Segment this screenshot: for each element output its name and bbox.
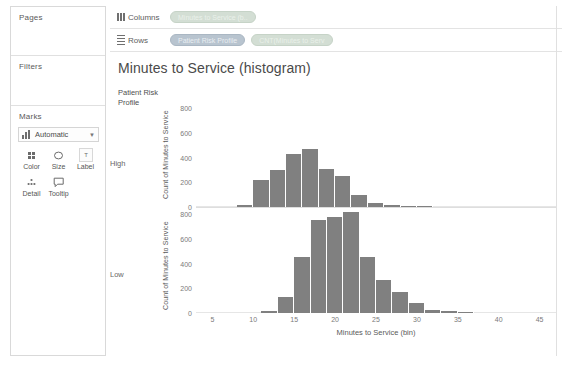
tableau-worksheet: Pages Filters Marks Automatic ▼ C bbox=[0, 0, 572, 371]
view-right-border bbox=[556, 6, 557, 356]
histogram-bar[interactable] bbox=[360, 257, 376, 313]
x-tick-label: 5 bbox=[210, 316, 214, 323]
size-circle-icon bbox=[52, 148, 66, 162]
y-axis-ticks-high: 0200400600800 bbox=[172, 102, 192, 207]
histogram-bar[interactable] bbox=[441, 311, 457, 313]
left-cards-panel: Pages Filters Marks Automatic ▼ C bbox=[10, 6, 106, 356]
histogram-bar[interactable] bbox=[319, 169, 335, 207]
histogram-bar[interactable] bbox=[458, 312, 474, 313]
chart-pane-high[interactable] bbox=[196, 102, 556, 208]
histogram-bar[interactable] bbox=[327, 217, 343, 313]
histogram-bar[interactable] bbox=[409, 303, 425, 314]
marks-size-button[interactable]: Size bbox=[45, 148, 72, 171]
y-tick-label: 600 bbox=[180, 235, 192, 242]
y-tick-label: 0 bbox=[188, 310, 192, 317]
marks-card-title: Marks bbox=[11, 106, 105, 121]
marks-tooltip-label: Tooltip bbox=[48, 190, 68, 198]
x-tick-label: 20 bbox=[331, 316, 339, 323]
marks-card: Marks Automatic ▼ Color bbox=[11, 106, 105, 208]
marks-color-button[interactable]: Color bbox=[18, 148, 45, 171]
pill-minutes-to-service-bin[interactable]: Minutes to Service (b.. bbox=[170, 11, 256, 23]
x-tick-label: 25 bbox=[372, 316, 380, 323]
plot-area: High Low Count of Minutes to Service Cou… bbox=[110, 102, 562, 356]
rows-lines-icon bbox=[114, 35, 128, 46]
row-header-high[interactable]: High bbox=[110, 159, 158, 168]
marks-detail-label: Detail bbox=[23, 190, 41, 198]
histogram-bar[interactable] bbox=[392, 292, 408, 313]
bar-chart-icon bbox=[22, 130, 31, 139]
y-tick-label: 800 bbox=[180, 211, 192, 218]
y-tick-label: 200 bbox=[180, 179, 192, 186]
row-field-header-line1: Patient Risk bbox=[118, 88, 174, 98]
columns-grid-icon bbox=[114, 13, 128, 21]
histogram-bar[interactable] bbox=[237, 205, 253, 207]
detail-dots-icon bbox=[25, 175, 39, 189]
pill-cnt-minutes-to-service[interactable]: CNT(Minutes to Serv bbox=[251, 34, 332, 46]
pages-card-title: Pages bbox=[11, 7, 105, 22]
histogram-bar[interactable] bbox=[261, 311, 277, 313]
shelf-area: Columns Minutes to Service (b.. Rows Pat… bbox=[110, 6, 562, 52]
rows-shelf-label: Rows bbox=[128, 36, 170, 45]
x-tick-label: 35 bbox=[454, 316, 462, 323]
histogram-bar[interactable] bbox=[368, 203, 384, 207]
y-tick-label: 400 bbox=[180, 260, 192, 267]
tooltip-bubble-icon bbox=[52, 175, 66, 189]
filters-card[interactable]: Filters bbox=[11, 56, 105, 106]
pages-card[interactable]: Pages bbox=[11, 7, 105, 56]
x-tick-label: 30 bbox=[413, 316, 421, 323]
x-tick-label: 45 bbox=[536, 316, 544, 323]
histogram-bar[interactable] bbox=[401, 206, 417, 207]
y-axis-ticks-low: 0200400600800 bbox=[172, 208, 192, 313]
histogram-bar[interactable] bbox=[417, 206, 433, 207]
histogram-bar[interactable] bbox=[311, 220, 327, 313]
chart-pane-low[interactable] bbox=[196, 208, 556, 313]
y-tick-label: 400 bbox=[180, 154, 192, 161]
marks-card-body: Automatic ▼ Color Size bbox=[11, 121, 105, 208]
histogram-bar[interactable] bbox=[270, 170, 286, 207]
columns-shelf[interactable]: Columns Minutes to Service (b.. bbox=[110, 6, 562, 29]
y-tick-label: 600 bbox=[180, 129, 192, 136]
histogram-bar[interactable] bbox=[286, 154, 302, 207]
label-text-icon: T bbox=[79, 148, 93, 162]
histogram-bar[interactable] bbox=[302, 149, 318, 207]
rows-shelf[interactable]: Rows Patient Risk Profile CNT(Minutes to… bbox=[110, 29, 562, 52]
histogram-bar[interactable] bbox=[376, 280, 392, 313]
mark-type-dropdown[interactable]: Automatic ▼ bbox=[18, 127, 99, 142]
histogram-bar[interactable] bbox=[351, 195, 367, 207]
histogram-bar[interactable] bbox=[253, 180, 269, 207]
marks-property-buttons: Color Size T Label bbox=[18, 148, 99, 202]
histogram-bar[interactable] bbox=[343, 212, 359, 313]
histogram-bar[interactable] bbox=[384, 205, 400, 207]
marks-tooltip-button[interactable]: Tooltip bbox=[45, 175, 72, 198]
marks-label-button[interactable]: T Label bbox=[72, 148, 99, 171]
histogram-bar[interactable] bbox=[278, 297, 294, 313]
x-axis-title: Minutes to Service (bin) bbox=[196, 328, 556, 337]
page-title: Minutes to Service (histogram) bbox=[110, 52, 562, 76]
marks-color-label: Color bbox=[23, 163, 40, 171]
marks-detail-button[interactable]: Detail bbox=[18, 175, 45, 198]
chevron-down-icon: ▼ bbox=[89, 132, 95, 138]
x-tick-label: 15 bbox=[290, 316, 298, 323]
svg-text:T: T bbox=[84, 152, 88, 158]
columns-shelf-label: Columns bbox=[128, 13, 170, 22]
y-axis-title-high: Count of Minutes to Service bbox=[162, 103, 169, 207]
histogram-bar[interactable] bbox=[335, 176, 351, 207]
x-tick-label: 10 bbox=[249, 316, 257, 323]
y-tick-label: 800 bbox=[180, 105, 192, 112]
y-tick-label: 200 bbox=[180, 285, 192, 292]
filters-card-title: Filters bbox=[11, 56, 105, 71]
worksheet-view: Minutes to Service (histogram) Patient R… bbox=[110, 52, 562, 356]
y-axis-title-low: Count of Minutes to Service bbox=[162, 214, 169, 318]
mark-type-value: Automatic bbox=[35, 130, 89, 139]
histogram-bar[interactable] bbox=[294, 257, 310, 313]
histogram-bar[interactable] bbox=[425, 310, 441, 313]
pill-patient-risk-profile[interactable]: Patient Risk Profile bbox=[170, 34, 245, 46]
color-squares-icon bbox=[25, 148, 39, 162]
x-axis-ticks: 51015202530354045 bbox=[196, 314, 556, 326]
marks-label-label: Label bbox=[77, 163, 94, 171]
row-header-low[interactable]: Low bbox=[110, 270, 158, 279]
x-tick-label: 40 bbox=[495, 316, 503, 323]
marks-size-label: Size bbox=[52, 163, 66, 171]
